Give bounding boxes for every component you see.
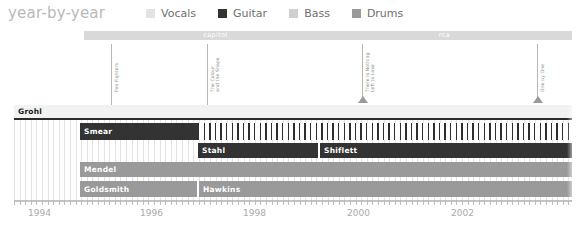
square-swatch-icon (289, 9, 298, 18)
album-marker-stem (207, 44, 208, 106)
legend: VocalsGuitarBassDrums (146, 5, 425, 21)
square-swatch-icon (218, 9, 227, 18)
x-axis-tick-label: 1996 (140, 208, 163, 218)
square-swatch-icon (352, 9, 361, 18)
album-marker-stem (111, 44, 112, 106)
member-segment-continuation[interactable] (198, 123, 572, 140)
guitar-row-1: Smear (14, 123, 572, 140)
album-title-label: and the Shape (215, 57, 220, 92)
x-axis-tick-label: 2002 (451, 208, 474, 218)
x-axis-ticks (14, 200, 572, 205)
album-marker-stem (362, 44, 363, 102)
member-segment-mendel[interactable]: Mendel (80, 162, 572, 177)
bass-row: Mendel (14, 162, 572, 177)
legend-label: Drums (367, 7, 403, 20)
member-name-label: Hawkins (199, 185, 240, 194)
member-segment-smear[interactable]: Smear (80, 123, 198, 140)
year-by-year-chart: year-by-year VocalsGuitarBassDrums capit… (0, 0, 577, 233)
member-segment-grohl[interactable]: Grohl (14, 105, 572, 118)
album-title-label: One by One (540, 64, 545, 92)
album-title-label: Foo Fighters (114, 63, 119, 92)
member-name-label: Shiflett (320, 146, 357, 155)
record-label-bar-capitol[interactable]: capitol (84, 31, 347, 40)
timeline-plot: GrohlSmearStahlShiflettMendelGoldsmithHa… (14, 105, 572, 200)
drums-row: GoldsmithHawkins (14, 181, 572, 197)
square-swatch-icon (146, 9, 155, 18)
member-name-label: Smear (80, 127, 112, 136)
member-name-label: Grohl (14, 107, 42, 116)
member-segment-goldsmith[interactable]: Goldsmith (80, 181, 197, 197)
legend-label: Vocals (161, 7, 196, 20)
guitar-row-2: StahlShiflett (14, 143, 572, 158)
x-axis-tick-label: 1994 (28, 208, 51, 218)
legend-item-vocals[interactable]: Vocals (146, 7, 196, 20)
member-segment-shiflett[interactable]: Shiflett (320, 143, 572, 158)
right-edge-fade (567, 105, 577, 200)
album-marker-stem (537, 44, 538, 102)
member-name-label: Goldsmith (80, 185, 129, 194)
legend-item-drums[interactable]: Drums (352, 7, 403, 20)
member-segment-stahl[interactable]: Stahl (198, 143, 318, 158)
album-release-triangle-icon (358, 96, 368, 103)
legend-item-bass[interactable]: Bass (289, 7, 330, 20)
legend-label: Guitar (233, 7, 267, 20)
legend-item-guitar[interactable]: Guitar (218, 7, 267, 20)
x-axis-tick-label: 1998 (243, 208, 266, 218)
album-title-label: Left to Lose (370, 64, 375, 92)
record-label-bar-rca[interactable]: rca (317, 31, 572, 40)
member-name-label: Stahl (198, 146, 225, 155)
member-segment-hawkins[interactable]: Hawkins (199, 181, 572, 197)
album-release-triangle-icon (533, 96, 543, 103)
record-label-name: rca (317, 31, 572, 40)
row-underline (14, 118, 572, 120)
page-title: year-by-year (8, 4, 105, 22)
x-axis-tick-label: 2000 (347, 208, 370, 218)
legend-label: Bass (304, 7, 330, 20)
vocals-row: Grohl (14, 105, 572, 118)
record-label-name: capitol (84, 31, 347, 40)
member-name-label: Mendel (80, 165, 116, 174)
